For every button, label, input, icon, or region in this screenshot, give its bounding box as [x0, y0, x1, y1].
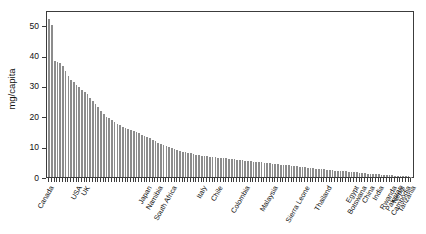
x-tick-mark — [103, 178, 104, 182]
bar — [163, 145, 165, 177]
bar — [65, 71, 67, 177]
bar — [274, 164, 276, 177]
bar — [400, 176, 402, 177]
x-tick-mark — [277, 178, 278, 182]
bar — [212, 157, 214, 177]
bar — [323, 169, 325, 177]
x-tick-mark — [163, 178, 164, 182]
bar — [204, 156, 206, 177]
x-tick-mark — [108, 178, 109, 182]
x-tick-mark — [342, 178, 343, 182]
x-tick-mark — [293, 178, 294, 182]
x-tick-mark — [225, 178, 226, 182]
bar — [239, 160, 241, 177]
bar — [367, 174, 369, 177]
x-tick-mark — [233, 178, 234, 182]
y-tick-label: 30 — [30, 81, 39, 91]
y-axis-title: mg/capita — [2, 0, 20, 178]
bar — [304, 167, 306, 177]
x-tick-mark — [315, 178, 316, 182]
bar — [285, 165, 287, 177]
x-tick-mark — [318, 178, 319, 182]
x-tick-mark — [168, 178, 169, 182]
x-tick-mark — [244, 178, 245, 182]
x-tick-mark — [89, 178, 90, 182]
x-tick-mark — [70, 178, 71, 182]
bar — [269, 163, 271, 177]
x-tick-mark — [67, 178, 68, 182]
bar — [78, 87, 80, 177]
x-tick-mark — [48, 178, 49, 182]
bar — [81, 90, 83, 177]
x-tick-mark — [340, 178, 341, 182]
bar — [76, 85, 78, 177]
x-tick-mark — [154, 178, 155, 182]
bar — [228, 159, 230, 177]
bar — [364, 173, 366, 177]
bar — [59, 63, 61, 177]
bar — [130, 130, 132, 177]
x-tick-mark — [100, 178, 101, 182]
x-tick-mark — [76, 178, 77, 182]
bar — [111, 120, 113, 177]
bar — [171, 148, 173, 177]
bar — [310, 168, 312, 177]
x-tick-mark — [190, 178, 191, 182]
x-tick-mark — [364, 178, 365, 182]
bar — [255, 162, 257, 177]
bar — [54, 61, 56, 177]
bar — [195, 155, 197, 177]
x-tick-mark — [92, 178, 93, 182]
bar — [321, 169, 323, 177]
x-tick-mark — [236, 178, 237, 182]
x-tick-mark — [372, 178, 373, 182]
x-tick-mark — [348, 178, 349, 182]
bar — [149, 138, 151, 177]
x-tick-mark — [239, 178, 240, 182]
bar — [386, 175, 388, 177]
x-tick-mark — [391, 178, 392, 182]
x-tick-mark — [174, 178, 175, 182]
bar — [122, 127, 124, 177]
bar — [174, 149, 176, 177]
bar — [302, 167, 304, 177]
x-tick-mark — [307, 178, 308, 182]
x-tick-mark — [122, 178, 123, 182]
bar — [375, 174, 377, 177]
x-tick-mark — [252, 178, 253, 182]
x-tick-mark — [171, 178, 172, 182]
bar — [234, 159, 236, 177]
x-tick-mark — [399, 178, 400, 182]
bar — [329, 170, 331, 177]
x-tick-mark — [203, 178, 204, 182]
bar — [193, 154, 195, 177]
x-tick-mark — [105, 178, 106, 182]
x-tick-mark — [187, 178, 188, 182]
bar — [68, 76, 70, 177]
bar — [280, 165, 282, 177]
bar — [389, 175, 391, 177]
bar — [185, 152, 187, 177]
bar — [383, 175, 385, 177]
x-tick-mark — [380, 178, 381, 182]
bar — [117, 124, 119, 177]
x-tick-mark — [389, 178, 390, 182]
bar — [133, 131, 135, 177]
bar — [272, 164, 274, 177]
bar — [106, 117, 108, 177]
x-tick-mark — [179, 178, 180, 182]
bars-layer — [47, 12, 413, 177]
x-tick-mark — [217, 178, 218, 182]
bar — [146, 137, 148, 177]
bar — [125, 128, 127, 177]
x-tick-mark — [146, 178, 147, 182]
x-tick-mark — [282, 178, 283, 182]
bar — [361, 173, 363, 177]
x-tick-mark — [266, 178, 267, 182]
x-tick-mark — [258, 178, 259, 182]
bar — [136, 132, 138, 177]
bar — [250, 161, 252, 177]
bar — [345, 171, 347, 177]
x-tick-mark — [370, 178, 371, 182]
x-tick-mark — [274, 178, 275, 182]
